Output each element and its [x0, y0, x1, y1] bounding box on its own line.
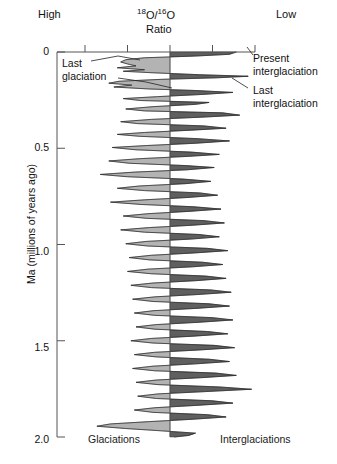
glacial-fill-area	[97, 57, 170, 432]
isotope-curve-plot	[0, 0, 337, 464]
leader-present-interglaciation	[247, 47, 253, 55]
oxygen-isotope-figure: High Low 18O/16O Ratio Ma (millions of y…	[0, 0, 337, 464]
isotope-curve-line	[97, 52, 252, 437]
leader-last-interglaciation	[232, 78, 248, 88]
glacial-segment	[97, 420, 170, 431]
interglacial-fill-area	[170, 52, 252, 437]
